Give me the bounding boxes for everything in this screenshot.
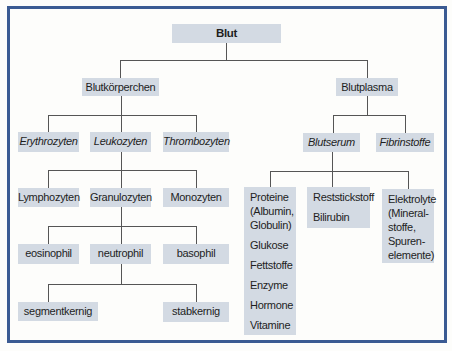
connector bbox=[226, 43, 227, 60]
connector bbox=[48, 170, 196, 171]
node-blut: Blut bbox=[172, 24, 281, 43]
connector bbox=[48, 115, 49, 132]
connector bbox=[120, 60, 121, 78]
node-eosinophil: eosinophil bbox=[18, 244, 79, 264]
list-item: Bilirubin bbox=[313, 210, 370, 224]
list-item: Fettstoffe bbox=[250, 258, 296, 272]
connector bbox=[333, 115, 334, 133]
connector bbox=[367, 60, 368, 78]
list-item: Vitamine bbox=[250, 318, 296, 332]
connector bbox=[121, 96, 122, 132]
node-basophil: basophil bbox=[163, 244, 229, 264]
connector bbox=[48, 284, 196, 285]
node-elektrolyte: Elektrolyte (Mineral-stoffe, Spuren-elem… bbox=[382, 189, 434, 263]
connector bbox=[120, 60, 368, 61]
connector bbox=[121, 264, 122, 284]
list-item: Hormone bbox=[250, 298, 296, 312]
connector bbox=[367, 96, 368, 115]
node-proteine-list: Proteine (Albumin, Globulin) Glukose Fet… bbox=[244, 187, 296, 335]
connector bbox=[270, 171, 409, 172]
node-stabkernig: stabkernig bbox=[163, 302, 229, 322]
connector bbox=[196, 226, 197, 244]
connector bbox=[48, 115, 196, 116]
node-erythrozyten: Erythrozyten bbox=[18, 132, 79, 152]
connector bbox=[333, 115, 405, 116]
node-granulozyten: Granulozyten bbox=[90, 188, 151, 207]
node-thrombozyten: Thrombozyten bbox=[163, 132, 229, 152]
list-item: Proteine (Albumin, Globulin) bbox=[250, 190, 296, 232]
list-item: Elektrolyte (Mineral-stoffe, Spuren-elem… bbox=[388, 192, 434, 262]
node-fibrinstoffe: Fibrinstoffe bbox=[376, 133, 434, 152]
connector bbox=[196, 284, 197, 302]
connector bbox=[48, 170, 49, 188]
node-reststickstoff-list: Reststickstoff Bilirubin bbox=[307, 187, 370, 228]
list-item: Enzyme bbox=[250, 278, 296, 292]
list-item: Glukose bbox=[250, 238, 296, 252]
connector bbox=[408, 171, 409, 189]
diagram-frame bbox=[7, 6, 447, 343]
connector bbox=[196, 170, 197, 188]
node-neutrophil: neutrophil bbox=[90, 244, 151, 264]
connector bbox=[270, 171, 271, 187]
node-monozyten: Monozyten bbox=[163, 188, 229, 207]
connector bbox=[332, 152, 333, 187]
connector bbox=[48, 226, 49, 244]
node-lymphozyten: Lymphozyten bbox=[18, 188, 79, 207]
node-blutkoerperchen: Blutkörperchen bbox=[82, 78, 159, 96]
connector bbox=[48, 284, 49, 302]
list-item: Reststickstoff bbox=[313, 190, 370, 204]
connector bbox=[48, 226, 196, 227]
node-leukozyten: Leukozyten bbox=[90, 132, 151, 152]
connector bbox=[405, 115, 406, 133]
node-blutplasma: Blutplasma bbox=[336, 78, 398, 96]
node-blutserum: Blutserum bbox=[303, 133, 360, 152]
node-segmentkernig: segmentkernig bbox=[18, 302, 98, 321]
connector bbox=[196, 115, 197, 132]
